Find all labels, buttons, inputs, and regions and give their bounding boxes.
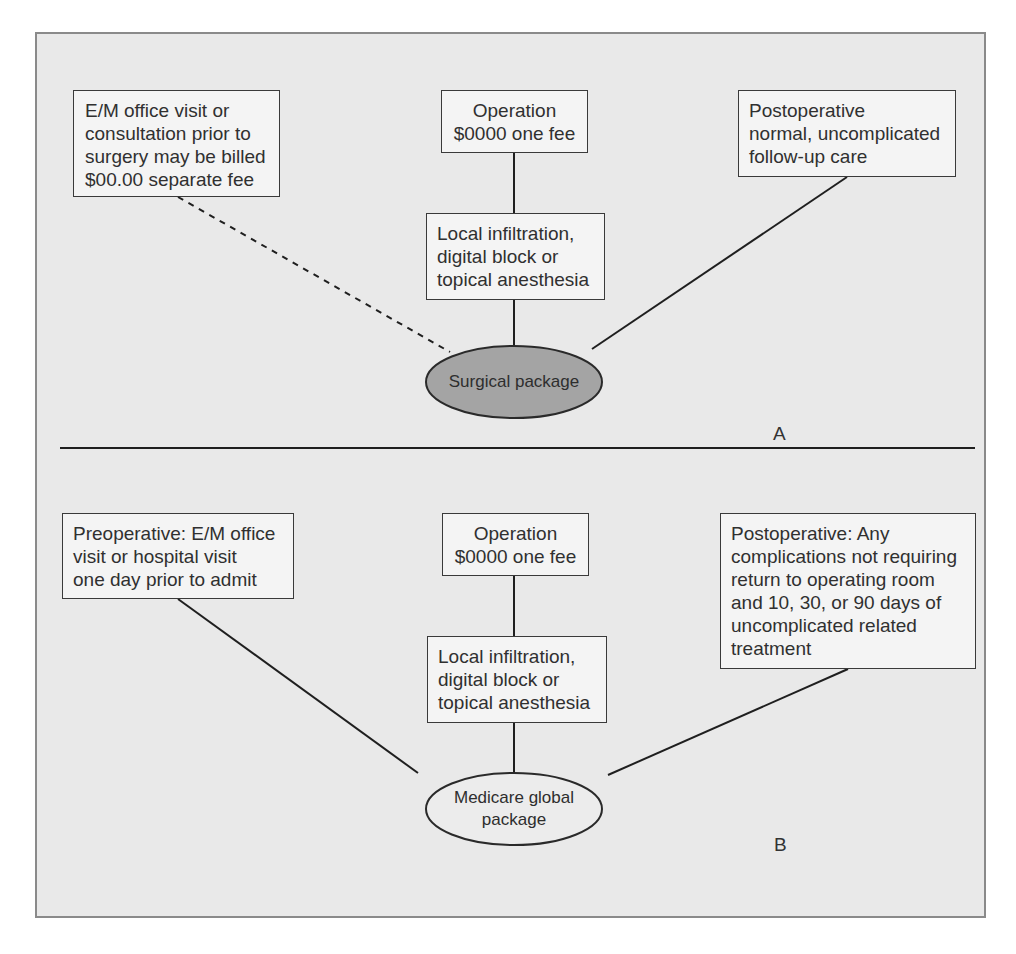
box-text-line: surgery may be billed [85,145,268,168]
box-text-line: topical anesthesia [437,268,594,291]
box-text-line: follow-up care [749,145,945,168]
box-text-line: Postoperative [749,99,945,122]
panel-a-preop-box: E/M office visit or consultation prior t… [73,90,280,197]
box-text-line: complications not requiring [731,545,965,568]
box-text-line: treatment [731,637,965,660]
box-text-line: and 10, 30, or 90 days of [731,591,965,614]
connector-b-postop [608,669,848,775]
box-text-line: uncomplicated related [731,614,965,637]
panel-b-operation-box: Operation $0000 one fee [442,513,589,576]
box-text-line: Postoperative: Any [731,522,965,545]
box-text-line: Local infiltration, [438,645,596,668]
package-text-line: Surgical package [426,371,602,393]
box-text-line: consultation prior to [85,122,268,145]
box-text-line: Operation [452,99,577,122]
panel-a-operation-box: Operation $0000 one fee [441,90,588,153]
box-text-line: return to operating room [731,568,965,591]
box-text-line: E/M office visit or [85,99,268,122]
panel-a-anesthesia-box: Local infiltration, digital block or top… [426,213,605,300]
box-text-line: Preoperative: E/M office [73,522,283,545]
box-text-line: visit or hospital visit [73,545,283,568]
box-text-line: $0000 one fee [453,545,578,568]
panel-a-label: A [773,423,786,445]
box-text-line: normal, uncomplicated [749,122,945,145]
box-text-line: Local infiltration, [437,222,594,245]
package-text-line: package [426,809,602,831]
box-text-line: one day prior to admit [73,568,283,591]
package-text-line: Medicare global [426,787,602,809]
box-text-line: $0000 one fee [452,122,577,145]
connector-b-preop [178,599,418,773]
panel-b-postop-box: Postoperative: Any complications not req… [720,513,976,669]
panel-a-postop-box: Postoperative normal, uncomplicated foll… [738,90,956,177]
panel-b-label: B [774,834,787,856]
box-text-line: digital block or [438,668,596,691]
connector-a-postop [592,177,847,349]
panel-b-preop-box: Preoperative: E/M office visit or hospit… [62,513,294,599]
box-text-line: topical anesthesia [438,691,596,714]
surgical-package-label: Surgical package [426,371,602,393]
box-text-line: digital block or [437,245,594,268]
box-text-line: $00.00 separate fee [85,168,268,191]
connector-a-preop-dashed [178,197,450,352]
medicare-package-label: Medicare global package [426,787,602,831]
box-text-line: Operation [453,522,578,545]
panel-b-anesthesia-box: Local infiltration, digital block or top… [427,636,607,723]
